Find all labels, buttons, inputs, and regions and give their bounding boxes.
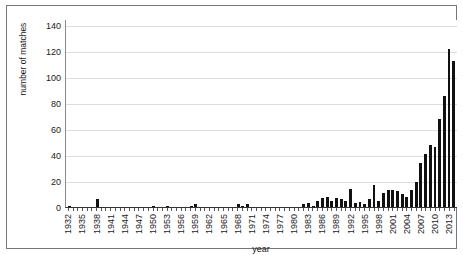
- x-tick-mark: [336, 208, 337, 211]
- x-tick-mark: [392, 208, 393, 211]
- x-tick-mark: [134, 208, 135, 211]
- x-tick-mark: [261, 208, 262, 211]
- x-tick-mark: [411, 208, 412, 211]
- bar: [302, 204, 305, 207]
- x-tick-mark: [289, 208, 290, 211]
- x-tick-mark: [355, 208, 356, 211]
- x-tick-mark: [82, 208, 83, 211]
- bar: [387, 190, 390, 207]
- x-tick-mark: [364, 208, 365, 211]
- x-tick-mark: [397, 208, 398, 211]
- y-tick-label: 80: [31, 99, 61, 109]
- chart-frame: number of matches 020406080100120140 193…: [6, 5, 457, 249]
- x-tick-mark: [322, 208, 323, 211]
- bar: [68, 206, 71, 207]
- bar: [452, 61, 455, 208]
- x-tick-mark: [444, 208, 445, 211]
- x-tick-mark: [284, 208, 285, 211]
- x-tick-mark: [345, 208, 346, 211]
- x-tick-mark: [430, 208, 431, 211]
- x-axis-title: year: [65, 244, 457, 254]
- x-tick-mark: [115, 208, 116, 211]
- bar: [241, 206, 244, 207]
- x-tick-mark: [171, 208, 172, 211]
- x-tick-mark: [195, 208, 196, 211]
- x-tick-mark: [167, 208, 168, 211]
- bar: [359, 202, 362, 207]
- x-tick-mark: [129, 208, 130, 211]
- y-axis-title: number of matches: [18, 0, 28, 119]
- bar: [438, 119, 441, 207]
- x-axis-tick-labels: 1932193519381941194419471950195319561959…: [65, 212, 457, 244]
- x-tick-mark: [421, 208, 422, 211]
- chart-figure: number of matches 020406080100120140 193…: [0, 0, 463, 255]
- bar: [382, 193, 385, 207]
- x-tick-mark: [331, 208, 332, 211]
- x-tick-mark: [101, 208, 102, 211]
- bar: [363, 204, 366, 207]
- x-tick-mark: [209, 208, 210, 211]
- x-tick-mark: [317, 208, 318, 211]
- x-tick-mark: [435, 208, 436, 211]
- bar: [312, 206, 315, 207]
- x-tick-mark: [77, 208, 78, 211]
- x-tick-mark: [298, 208, 299, 211]
- bar: [391, 190, 394, 207]
- y-tick-label: 140: [31, 21, 61, 31]
- y-tick-label: 60: [31, 125, 61, 135]
- x-tick-mark: [223, 208, 224, 211]
- x-tick-mark: [341, 208, 342, 211]
- bar: [448, 49, 451, 207]
- x-tick-mark: [251, 208, 252, 211]
- x-tick-mark: [439, 208, 440, 211]
- x-tick-mark: [449, 208, 450, 211]
- bar: [349, 189, 352, 207]
- bar: [429, 145, 432, 207]
- bar: [419, 163, 422, 207]
- x-tick-mark: [68, 208, 69, 211]
- bar-cell: [451, 20, 456, 207]
- bar-series: [66, 20, 457, 207]
- x-tick-mark: [294, 208, 295, 211]
- x-tick-mark: [270, 208, 271, 211]
- y-tick-label: 40: [31, 151, 61, 161]
- x-tick-mark: [416, 208, 417, 211]
- y-tick-label: 0: [31, 203, 61, 213]
- bar: [410, 190, 413, 207]
- x-tick-mark: [204, 208, 205, 211]
- x-tick-mark: [214, 208, 215, 211]
- bar: [368, 199, 371, 207]
- x-tick-mark: [256, 208, 257, 211]
- x-tick-mark: [275, 208, 276, 211]
- bar: [307, 203, 310, 207]
- bar: [316, 201, 319, 207]
- bar: [237, 204, 240, 207]
- bar: [326, 197, 329, 207]
- x-tick-mark: [374, 208, 375, 211]
- bar: [434, 147, 437, 207]
- x-tick-mark: [120, 208, 121, 211]
- x-tick-mark: [124, 208, 125, 211]
- bar: [246, 204, 249, 207]
- x-tick-mark: [110, 208, 111, 211]
- x-tick-mark: [96, 208, 97, 211]
- x-tick-mark: [138, 208, 139, 211]
- x-tick-mark: [73, 208, 74, 211]
- x-tick-mark: [148, 208, 149, 211]
- x-tick-mark: [402, 208, 403, 211]
- y-tick-label: 20: [31, 177, 61, 187]
- bar: [415, 182, 418, 207]
- x-tick-mark: [406, 208, 407, 211]
- x-tick-mark: [350, 208, 351, 211]
- y-tick-label: 100: [31, 73, 61, 83]
- bar: [335, 198, 338, 207]
- x-tick-mark: [359, 208, 360, 211]
- x-tick-mark: [378, 208, 379, 211]
- bar: [405, 197, 408, 207]
- bar: [344, 201, 347, 207]
- x-tick-mark: [218, 208, 219, 211]
- x-tick-mark: [327, 208, 328, 211]
- bar: [96, 199, 99, 207]
- x-tick-mark: [143, 208, 144, 211]
- x-tick-mark: [91, 208, 92, 211]
